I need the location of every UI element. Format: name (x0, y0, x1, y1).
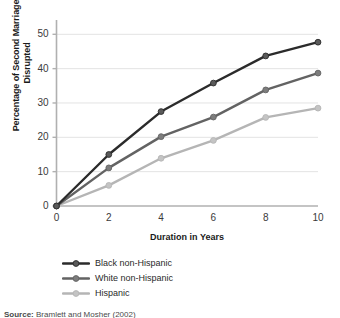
legend-item: White non-Hispanic (62, 271, 173, 286)
x-axis-tick-label: 10 (306, 212, 330, 223)
data-point-marker (315, 105, 321, 111)
data-point-marker (158, 155, 164, 161)
data-point-marker (263, 87, 269, 93)
data-point-marker (211, 114, 217, 120)
y-axis-tick-label: 10 (25, 166, 49, 177)
legend-item: Black non-Hispanic (62, 256, 173, 271)
x-axis-tick-label: 0 (45, 212, 69, 223)
chart-figure: Percentage of Second Marriages Disrupted… (0, 0, 340, 318)
legend-item: Hispanic (62, 286, 173, 301)
legend-swatch (62, 273, 90, 284)
y-axis-tick-label: 20 (25, 131, 49, 142)
series-line (57, 108, 319, 206)
data-point-marker (158, 134, 164, 140)
x-axis-tick-label: 8 (254, 212, 278, 223)
data-point-marker (106, 152, 112, 158)
series-line (57, 42, 319, 206)
data-point-marker (106, 165, 112, 171)
y-axis-tick-label: 50 (25, 28, 49, 39)
data-point-marker (315, 39, 321, 45)
x-axis-tick-label: 4 (149, 212, 173, 223)
y-axis-tick-label: 40 (25, 63, 49, 74)
data-point-marker (211, 80, 217, 86)
chart-legend: Black non-HispanicWhite non-HispanicHisp… (62, 256, 173, 301)
legend-label: Hispanic (95, 288, 130, 299)
legend-swatch (62, 258, 90, 269)
x-axis-tick-label: 6 (201, 212, 225, 223)
x-axis-title: Duration in Years (56, 232, 318, 242)
source-text: Bramlett and Mosher (2002) (36, 310, 136, 318)
data-point-marker (211, 138, 217, 144)
data-point-marker (54, 203, 60, 209)
source-note: Source: Bramlett and Mosher (2002) (4, 310, 136, 318)
y-axis-tick-label: 30 (25, 97, 49, 108)
data-point-marker (263, 115, 269, 121)
data-point-marker (158, 109, 164, 115)
series-line (57, 73, 319, 206)
data-point-marker (106, 182, 112, 188)
legend-label: Black non-Hispanic (95, 258, 172, 269)
data-point-marker (315, 70, 321, 76)
y-axis-tick-label: 0 (25, 200, 49, 211)
source-prefix: Source: (4, 310, 34, 318)
legend-label: White non-Hispanic (95, 273, 173, 284)
legend-swatch (62, 288, 90, 299)
x-axis-tick-label: 2 (97, 212, 121, 223)
data-point-marker (263, 53, 269, 59)
